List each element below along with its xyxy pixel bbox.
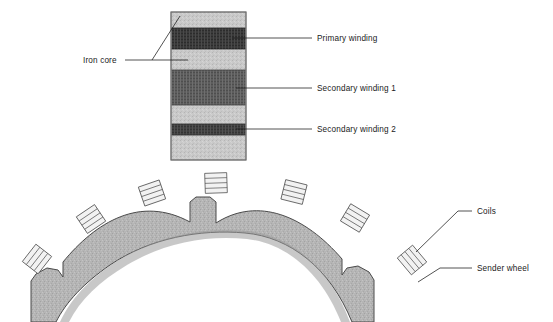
technical-diagram: Iron core Primary winding Secondary wind… [0, 0, 553, 322]
coil-4 [205, 173, 228, 194]
secondary-winding-1-band [172, 70, 246, 105]
coil-6 [340, 204, 369, 232]
label-iron-core: Iron core [83, 56, 117, 65]
label-secondary-winding-1: Secondary winding 1 [317, 84, 396, 93]
label-sender-wheel: Sender wheel [477, 264, 529, 273]
coil-3 [138, 180, 165, 206]
leader-sender-wheel [418, 268, 472, 282]
coil-7 [397, 245, 426, 275]
label-secondary-winding-2: Secondary winding 2 [317, 125, 396, 134]
primary-winding-band [172, 28, 246, 49]
wheel-leader-lines [416, 211, 472, 282]
transformer-core-group [171, 12, 246, 160]
label-coils: Coils [477, 207, 496, 216]
secondary-winding-2-band [172, 124, 246, 135]
leader-coils [416, 211, 472, 252]
coil-5 [281, 180, 307, 205]
label-primary-winding: Primary winding [317, 34, 378, 43]
diagram-canvas: Iron core Primary winding Secondary wind… [0, 0, 553, 322]
